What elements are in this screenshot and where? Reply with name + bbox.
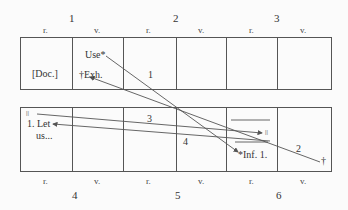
side-label: r. <box>146 26 151 35</box>
leaf-number-6: 6 <box>276 190 282 201</box>
cell-us: us... <box>36 131 52 141</box>
cell-dagger: † <box>321 156 326 166</box>
side-label: v. <box>198 177 204 186</box>
cell-inf: *Inf. 1. <box>238 150 267 160</box>
connector-line-1 <box>106 56 238 152</box>
leaf-number-5: 5 <box>175 190 181 201</box>
leaf-number-4: 4 <box>72 190 78 201</box>
connector-label-2: 2 <box>296 144 301 154</box>
leaf-number-1: 1 <box>69 13 75 24</box>
connector-label-1: 1 <box>148 70 153 80</box>
side-label: v. <box>94 177 100 186</box>
connector-line-4 <box>53 124 270 141</box>
side-label: r. <box>43 177 48 186</box>
top-sheet-grid <box>21 38 332 90</box>
cell-exh: †Exh. <box>79 70 103 80</box>
side-label: v. <box>94 26 100 35</box>
connector-label-3: 3 <box>147 114 152 124</box>
leaf-number-3: 3 <box>274 13 280 24</box>
side-label: r. <box>146 177 151 186</box>
side-label: r. <box>249 26 254 35</box>
side-label: r. <box>249 177 254 186</box>
side-label: v. <box>198 26 204 35</box>
connector-label-4: 4 <box>183 137 188 147</box>
side-label: v. <box>300 177 306 186</box>
leaf-number-2: 2 <box>173 13 179 24</box>
cell-let: 1. Let <box>27 119 50 129</box>
side-label: v. <box>300 26 306 35</box>
cell-mark-pause: || <box>26 110 29 117</box>
cell-use: Use* <box>85 50 106 60</box>
cell-mark-pause-right: || <box>265 129 268 136</box>
cell-doc: [Doc.] <box>32 69 58 79</box>
manuscript-diagram <box>0 0 348 210</box>
side-label: r. <box>43 26 48 35</box>
bottom-sheet-grid <box>21 108 332 172</box>
